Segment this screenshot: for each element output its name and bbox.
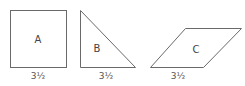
shape-b-base-dimension: 3½ xyxy=(99,71,114,81)
shape-c-label: C xyxy=(193,44,200,55)
shape-b-group: B 3½ xyxy=(81,11,136,82)
shape-a-label: A xyxy=(35,34,42,45)
shapes-diagram: A 3½ B 3½ C 3½ xyxy=(0,0,245,86)
triangle-b xyxy=(81,11,136,68)
shape-c-base-dimension: 3½ xyxy=(171,71,186,81)
shape-c-group: C 3½ xyxy=(151,29,242,82)
shape-a-group: A 3½ xyxy=(11,11,67,82)
shape-a-base-dimension: 3½ xyxy=(31,71,46,81)
shape-b-label: B xyxy=(94,43,101,54)
